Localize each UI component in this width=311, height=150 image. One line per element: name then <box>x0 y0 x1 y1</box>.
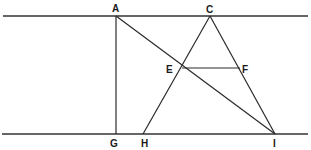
label-G: G <box>110 138 118 149</box>
label-H: H <box>141 138 148 149</box>
label-C: C <box>206 4 213 15</box>
label-I: I <box>273 138 276 149</box>
label-E: E <box>166 64 173 75</box>
diagram-canvas: A C E F G H I <box>0 0 311 150</box>
label-F: F <box>242 64 248 75</box>
label-A: A <box>112 3 119 14</box>
segment-CH <box>143 16 210 134</box>
segment-CI <box>210 16 275 134</box>
segment-AI <box>116 16 275 134</box>
geometry-diagram: A C E F G H I <box>0 0 311 150</box>
